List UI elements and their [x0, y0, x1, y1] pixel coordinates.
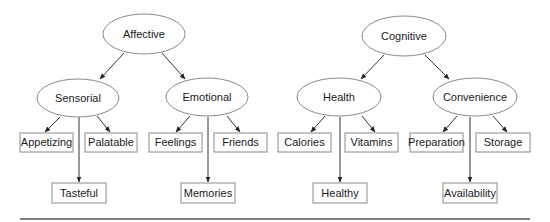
edge-affective-emotional	[162, 53, 185, 79]
node-vitamins: Vitamins	[345, 133, 398, 152]
edge-health-vitamins	[362, 116, 375, 132]
node-label: Preparation	[408, 136, 465, 148]
node-feelings: Feelings	[149, 133, 202, 152]
node-health: Health	[297, 78, 381, 116]
node-storage: Storage	[476, 133, 530, 152]
edge-sensorial-appetizing	[45, 117, 60, 132]
node-label: Convenience	[443, 91, 507, 103]
node-affective: Affective	[103, 14, 185, 54]
node-emotional: Emotional	[166, 78, 248, 116]
edge-convenience-storage	[493, 116, 507, 132]
node-label: Cognitive	[381, 30, 427, 42]
node-preparation: Preparation	[408, 133, 465, 152]
node-label: Feelings	[155, 136, 197, 148]
node-label: Storage	[484, 136, 523, 148]
node-availability: Availability	[443, 183, 497, 203]
node-label: Tasteful	[60, 187, 98, 199]
node-label: Calories	[284, 136, 325, 148]
node-label: Affective	[123, 28, 165, 40]
node-label: Availability	[444, 187, 496, 199]
edge-cognitive-convenience	[425, 55, 449, 79]
node-label: Palatable	[88, 136, 134, 148]
node-tasteful: Tasteful	[52, 183, 106, 203]
node-convenience: Convenience	[433, 78, 517, 116]
node-label: Appetizing	[21, 136, 72, 148]
edge-emotional-friends	[227, 116, 240, 132]
node-label: Healthy	[321, 187, 359, 199]
node-healthy: Healthy	[313, 183, 367, 203]
node-memories: Memories	[181, 183, 235, 203]
node-label: Friends	[222, 136, 259, 148]
node-label: Sensorial	[55, 92, 101, 104]
edge-affective-sensorial	[100, 53, 124, 79]
node-appetizing: Appetizing	[20, 133, 73, 152]
node-label: Health	[323, 91, 355, 103]
hierarchy-diagram: Affective Cognitive Sensorial Emotional …	[0, 0, 550, 222]
node-cognitive: Cognitive	[362, 16, 446, 56]
edge-cognitive-health	[361, 55, 384, 79]
node-label: Vitamins	[351, 136, 393, 148]
edge-sensorial-palatable	[97, 116, 110, 132]
edge-convenience-preparation	[443, 116, 457, 132]
node-calories: Calories	[278, 133, 331, 152]
node-label: Emotional	[183, 91, 232, 103]
edge-health-calories	[311, 116, 325, 132]
node-friends: Friends	[214, 133, 267, 152]
edge-emotional-feelings	[176, 116, 190, 132]
node-label: Memories	[184, 187, 233, 199]
node-palatable: Palatable	[85, 133, 137, 152]
node-sensorial: Sensorial	[37, 79, 119, 117]
